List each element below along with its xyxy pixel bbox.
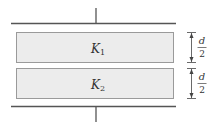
arrow-up-icon (190, 33, 194, 38)
arrow-down-icon (190, 93, 194, 98)
capacitor-diagram: K1 K2 d 2 d 2 (0, 0, 216, 129)
dimension-numerator: d (199, 35, 205, 46)
arrow-down-icon (190, 57, 194, 62)
dimension-upper: d 2 (187, 33, 207, 63)
dimension-denominator: 2 (199, 85, 205, 95)
dimension-lower: d 2 (187, 69, 207, 99)
arrow-up-icon (190, 69, 194, 74)
dimension-denominator: 2 (199, 49, 205, 59)
dimension-numerator: d (199, 71, 205, 82)
